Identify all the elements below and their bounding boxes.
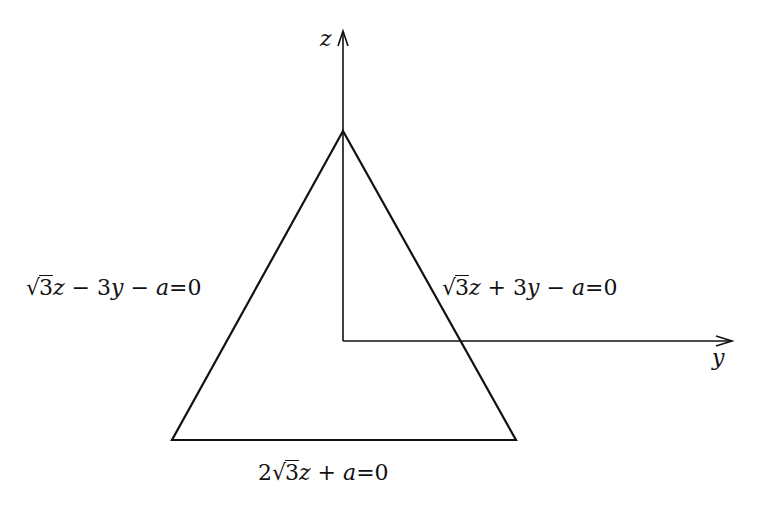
left-side-equation: √3z − 3y − a=0 (26, 275, 201, 299)
sqrt-symbol: √3 (272, 460, 299, 484)
diagram-canvas (0, 0, 774, 512)
sqrt-symbol: √3 (442, 275, 469, 299)
sqrt-symbol: √3 (26, 275, 53, 299)
bottom-side-equation: 2√3z + a=0 (258, 460, 389, 484)
z-axis-label: z (320, 28, 332, 50)
right-side-equation: √3z + 3y − a=0 (442, 275, 617, 299)
y-axis-label: y (712, 347, 724, 369)
